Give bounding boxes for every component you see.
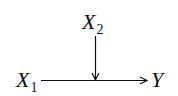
edge-x2-to-edge <box>92 36 99 80</box>
causal-diagram: X2 X1 Y <box>0 0 178 96</box>
edges-layer <box>0 0 178 96</box>
